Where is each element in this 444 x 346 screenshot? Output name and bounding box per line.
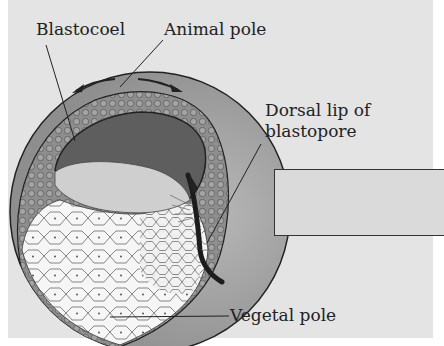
- annotation-box: [274, 169, 444, 236]
- label-vegetal-pole: Vegetal pole: [230, 306, 336, 325]
- label-animal-pole: Animal pole: [164, 20, 266, 39]
- label-blastocoel: Blastocoel: [36, 20, 125, 39]
- label-dorsal-lip-line2: blastopore: [265, 122, 357, 141]
- label-dorsal-lip-line1: Dorsal lip of: [265, 101, 370, 120]
